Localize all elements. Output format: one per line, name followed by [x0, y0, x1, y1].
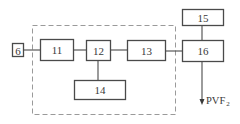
- dashed-group-border: [33, 26, 176, 115]
- block-15: 15: [183, 10, 224, 26]
- output-label: PVF2: [206, 95, 230, 108]
- block-6: 6: [13, 44, 24, 57]
- block-label: 11: [52, 44, 63, 56]
- block-13: 13: [128, 41, 166, 61]
- block-16: 16: [183, 41, 224, 62]
- block-label: 6: [15, 45, 21, 57]
- block-diagram: 6 11 12 13 14 15 16 PVF2: [0, 0, 240, 124]
- block-label: 13: [141, 45, 153, 57]
- block-12: 12: [87, 41, 111, 61]
- arrow-down-icon: [200, 99, 205, 105]
- block-label: 12: [93, 45, 104, 57]
- block-label: 15: [198, 12, 210, 24]
- block-label: 16: [198, 45, 210, 57]
- block-14: 14: [75, 81, 126, 100]
- block-11: 11: [41, 40, 74, 61]
- block-label: 14: [95, 84, 107, 96]
